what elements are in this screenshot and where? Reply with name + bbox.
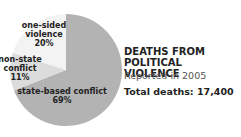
title-line-1: DEATHS FROM xyxy=(124,46,241,57)
label-one-sided-pct: 20% xyxy=(34,39,53,48)
label-non-state: non-state xyxy=(0,55,42,64)
label-state-based-pct: 69% xyxy=(52,96,71,105)
total-deaths: Total deaths: 17,400 xyxy=(124,86,234,97)
label-state-based: state-based conflict xyxy=(17,87,107,96)
label-one-sided-2: violence xyxy=(25,30,63,39)
label-non-state-2: conflict xyxy=(3,64,36,73)
chart-subtitle: Reported in 2005 xyxy=(124,70,206,81)
label-non-state-pct: 11% xyxy=(10,73,29,82)
label-one-sided: one-sided xyxy=(22,21,67,30)
